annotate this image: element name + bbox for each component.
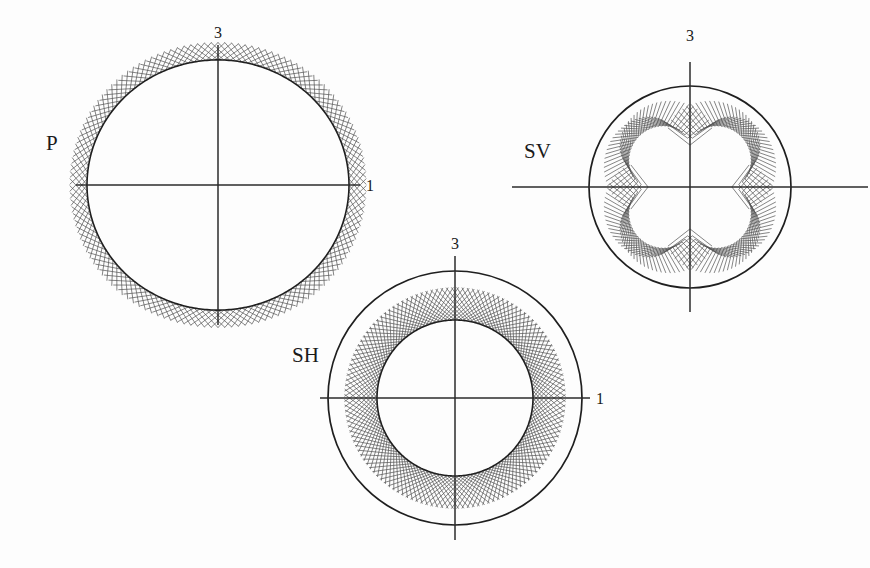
panel-p-wave: [70, 42, 367, 327]
anisotropy-figure-canvas: P31SV3SH31: [0, 0, 870, 568]
axis-label-1-p-wave: 1: [366, 177, 374, 194]
panel-label-sv-wave: SV: [524, 139, 551, 163]
axis-label-3-p-wave: 3: [214, 24, 222, 41]
axis-label-3-sh-wave: 3: [451, 235, 459, 252]
axis-label-1-sh-wave: 1: [596, 390, 604, 407]
panel-label-p-wave: P: [46, 131, 58, 155]
axis-label-3-sv-wave: 3: [686, 27, 694, 44]
figure-root: P31SV3SH31: [0, 0, 870, 568]
panel-label-sh-wave: SH: [292, 343, 319, 367]
